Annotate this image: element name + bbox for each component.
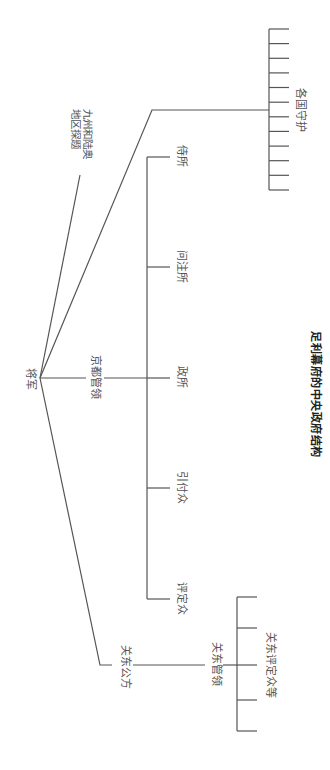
node-monchujo: 问注所 [175, 250, 187, 283]
org-chart-lines [0, 0, 330, 770]
org-chart-diagram: 将军 九州和陆奥 地区探题 各国守护 京都管领 侍所 问注所 政所 引付众 评定… [0, 0, 330, 770]
node-kyushu-line1: 九州和陆奥 [82, 109, 94, 159]
node-kyushu-mutsu-tandai: 九州和陆奥 地区探题 [70, 109, 94, 159]
node-hikitsukeshu: 引付众 [175, 471, 187, 504]
node-kanto-kubo: 关东公方 [119, 645, 131, 689]
node-hyojoshu: 评定众 [175, 582, 187, 615]
kanto-bracket-ticks [237, 597, 257, 731]
node-shogun: 将军 [24, 368, 36, 390]
node-kyoto-kanrei: 京都管领 [89, 355, 101, 399]
node-provincial-shugo: 各国守护 [294, 88, 306, 132]
provinces-bracket-ticks [269, 29, 289, 190]
connector-kanto-kubo [40, 378, 112, 665]
node-samurai-dokoro: 侍所 [175, 145, 187, 167]
connector-kyushu [40, 175, 80, 378]
diagram-caption: 足利幕府的中央政府结构 [309, 331, 325, 458]
node-kyushu-line2: 地区探题 [70, 109, 82, 159]
kyoto-offices-ticks [147, 157, 170, 599]
node-kanto-hyojoshu: 关东评定众等 [264, 632, 276, 698]
node-kanto-kanrei: 关东管领 [210, 642, 222, 686]
node-mandokoro: 政所 [175, 366, 187, 388]
